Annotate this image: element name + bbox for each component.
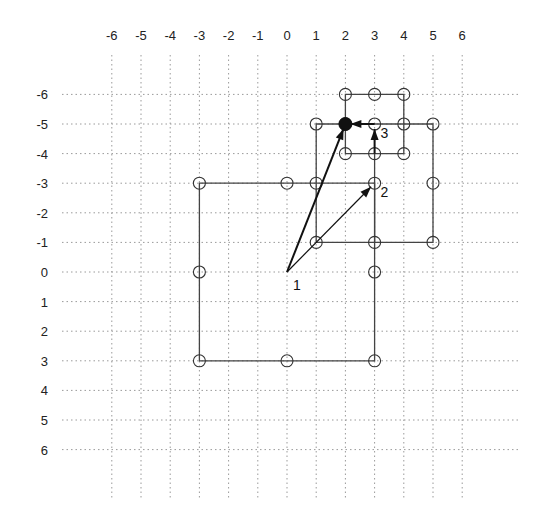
y-tick-label: -4 [36, 147, 48, 162]
y-tick-label: 6 [41, 443, 48, 458]
grid-diagram: -6-5-4-3-2-10123456 -6-5-4-3-2-10123456 … [0, 0, 540, 531]
filled-node-icon [339, 118, 352, 131]
y-tick-label: -1 [36, 235, 48, 250]
y-axis-tick-labels: -6-5-4-3-2-10123456 [36, 87, 48, 457]
x-tick-label: 2 [342, 28, 349, 43]
y-tick-label: 5 [41, 413, 48, 428]
arrowhead-icon [371, 129, 379, 140]
y-tick-label: 2 [41, 324, 48, 339]
arrow-2-shaft [287, 187, 371, 272]
vector-arrows [287, 120, 379, 272]
x-tick-label: 5 [429, 28, 436, 43]
y-tick-label: 0 [41, 265, 48, 280]
x-axis-tick-labels: -6-5-4-3-2-10123456 [106, 28, 466, 43]
x-tick-label: -5 [135, 28, 147, 43]
x-tick-label: 1 [313, 28, 320, 43]
y-tick-label: -6 [36, 87, 48, 102]
arrow-1-shaft [287, 129, 344, 272]
x-tick-label: 6 [459, 28, 466, 43]
dotted-grid [62, 55, 518, 500]
y-tick-label: 1 [41, 295, 48, 310]
x-tick-label: -6 [106, 28, 118, 43]
y-tick-label: 4 [41, 383, 48, 398]
x-tick-label: 0 [283, 28, 290, 43]
y-tick-label: 3 [41, 354, 48, 369]
x-tick-label: -3 [194, 28, 206, 43]
arrowhead-icon [336, 129, 344, 141]
y-tick-label: -2 [36, 206, 48, 221]
arrow-label: 2 [381, 184, 389, 200]
x-tick-label: -2 [223, 28, 235, 43]
x-tick-label: -4 [164, 28, 176, 43]
x-tick-label: -1 [252, 28, 264, 43]
x-tick-label: 4 [400, 28, 407, 43]
y-tick-label: -3 [36, 176, 48, 191]
x-tick-label: 3 [371, 28, 378, 43]
y-tick-label: -5 [36, 117, 48, 132]
arrow-label: 1 [293, 277, 301, 293]
arrow-label: 3 [381, 125, 389, 141]
arrowhead-icon [350, 120, 361, 128]
